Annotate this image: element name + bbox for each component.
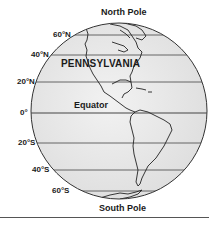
latitude-label-40s: 40°S: [32, 166, 49, 174]
latitude-label-20s: 20°S: [18, 139, 35, 147]
north-pole-label: North Pole: [101, 8, 147, 17]
latitude-label-0: 0°: [20, 109, 28, 117]
equator-label: Equator: [74, 101, 108, 110]
latitude-label-20n: 20°N: [17, 78, 35, 86]
latitude-label-60n: 60°N: [53, 31, 71, 39]
globe-diagram: [0, 0, 219, 226]
bottom-divider: [0, 217, 209, 218]
latitude-label-60s: 60°S: [52, 187, 69, 195]
globe: [31, 23, 207, 199]
south-pole-label: South Pole: [99, 204, 146, 213]
pennsylvania-label: PENNSYLVANIA: [61, 59, 140, 69]
latitude-label-40n: 40°N: [31, 51, 49, 59]
